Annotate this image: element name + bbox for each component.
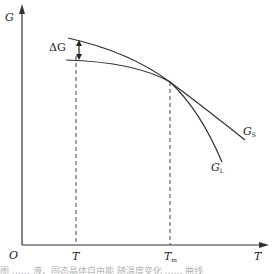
- x-axis-arrow-icon: [259, 242, 269, 248]
- delta-g-arrow-down-icon: [76, 54, 82, 60]
- tm-tick-label: Tm: [164, 251, 177, 263]
- gl-curve-label: GL: [211, 162, 224, 174]
- y-axis-label: G: [5, 12, 14, 23]
- delta-g-label: ΔG: [49, 42, 66, 53]
- figure-caption: 图 …… 液、固态晶体自由能 随温度变化 …… 曲线: [0, 264, 273, 274]
- origin-label: O: [9, 250, 18, 261]
- y-axis-arrow-icon: [19, 4, 25, 14]
- x-axis-label: T: [254, 251, 261, 262]
- gs-curve-label: GS: [243, 126, 256, 138]
- t-tick-label: T: [72, 251, 79, 262]
- gs-curve: [68, 38, 245, 140]
- gl-curve: [66, 60, 222, 162]
